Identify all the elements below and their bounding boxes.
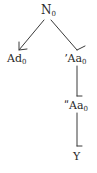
node-root-subscript: 0 — [52, 10, 56, 18]
node-leaf: Y — [73, 151, 80, 162]
node-right-child-subscript: 0 — [84, 105, 88, 113]
node-left: Ad0 — [7, 53, 26, 66]
node-left-subscript: 0 — [22, 58, 26, 66]
node-right-child-label: ʺAa — [64, 99, 84, 112]
node-right-label: ʼAa — [64, 52, 82, 65]
node-root: N0 — [41, 4, 56, 18]
edge-rightchild-leaf-half-arrow-icon — [77, 113, 82, 146]
node-leaf-label: Y — [73, 150, 80, 163]
tree-edges — [0, 0, 97, 173]
edge-root-left-arrow-icon — [19, 20, 44, 50]
node-right-subscript: 0 — [82, 58, 86, 66]
tree-diagram: N0 Ad0 ʼAa0 ʺAa0 Y — [0, 0, 97, 173]
edge-right-rightchild-half-arrow-icon — [77, 66, 82, 96]
edge-root-right-half-arrow-icon — [51, 20, 85, 50]
node-left-label: Ad — [7, 52, 22, 65]
node-root-label: N — [41, 3, 52, 17]
node-right-child: ʺAa0 — [64, 100, 88, 113]
node-right: ʼAa0 — [64, 53, 86, 66]
